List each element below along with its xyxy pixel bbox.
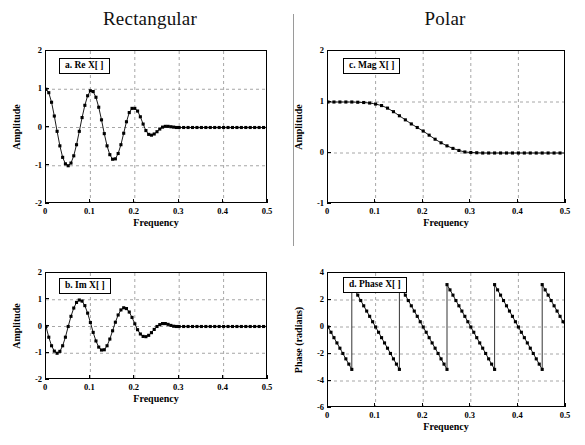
panel-b-xtick: 0.3 <box>173 382 184 392</box>
column-title-rectangular: Rectangular <box>60 8 240 30</box>
panel-a-ytick: 1 <box>25 83 42 93</box>
panel-d-ytickmark <box>327 326 331 327</box>
panel-d-xtick: 0.2 <box>417 410 428 420</box>
panel-b-xtick: 0.2 <box>128 382 139 392</box>
panel-d-ytickmark <box>327 353 331 354</box>
panel-d-ytickmark <box>327 299 331 300</box>
panel-d-xtick: 0.5 <box>560 410 571 420</box>
panel-b-xtick: 0.4 <box>217 382 228 392</box>
panel-a-xtickmark <box>178 199 179 203</box>
panel-c-xlabel: Frequency <box>423 217 468 228</box>
panel-a-ytick: -1 <box>25 160 42 170</box>
panel-d-xtickmark <box>374 403 375 407</box>
panel-d-xtick: 0.4 <box>512 410 523 420</box>
panel-b-xtickmark <box>222 375 223 379</box>
panel-c-xtickmark <box>565 199 566 203</box>
panel-d-ytickmark <box>327 380 331 381</box>
panel-b-xtick: 0 <box>43 382 47 392</box>
panel-a-re: a. Re X[ ]00.10.20.30.40.5-2-1012Frequen… <box>45 50 267 203</box>
panel-d-ytick: -2 <box>307 348 324 358</box>
panel-a-xtickmark <box>222 199 223 203</box>
panel-c-ytick: 2 <box>307 45 324 55</box>
panel-b-ytickmark <box>45 272 49 273</box>
panel-b-ytickmark <box>45 379 49 380</box>
panel-d-ytick: -6 <box>307 402 324 412</box>
panel-c-xtickmark <box>422 199 423 203</box>
panel-a-ytickmark <box>45 50 49 51</box>
panel-b-ytickmark <box>45 298 49 299</box>
panel-b-ytick: 1 <box>25 294 42 304</box>
panel-b-xtickmark <box>89 375 90 379</box>
panel-b-ytick: 0 <box>25 321 42 331</box>
panel-c-ytick: 1 <box>307 96 324 106</box>
panel-a-xtickmark <box>89 199 90 203</box>
panel-d-xtick: 0 <box>325 410 329 420</box>
panel-b-ytickmark <box>45 325 49 326</box>
panel-d-ylabel: Phase (radians) <box>293 306 304 372</box>
panel-c-ytick: -1 <box>307 198 324 208</box>
panel-a-xtick: 0.4 <box>217 206 228 216</box>
panel-c-label: c. Mag X[ ] <box>343 58 400 74</box>
panel-d-ytick: 4 <box>307 267 324 277</box>
panel-b-ytick: -2 <box>25 374 42 384</box>
panel-a-ytickmark <box>45 203 49 204</box>
panel-b-ytick: 2 <box>25 267 42 277</box>
panel-a-xtickmark <box>267 199 268 203</box>
panel-c-ytickmark <box>327 203 331 204</box>
panel-c-xtick: 0.4 <box>512 206 523 216</box>
panel-c-xtickmark <box>517 199 518 203</box>
panel-b-xtickmark <box>133 375 134 379</box>
panel-c-xtickmark <box>469 199 470 203</box>
panel-b-ytick: -1 <box>25 347 42 357</box>
panel-c-ytickmark <box>327 152 331 153</box>
panel-a-xtick: 0.5 <box>262 206 273 216</box>
panel-d-xtick: 0.1 <box>369 410 380 420</box>
panel-d-xlabel: Frequency <box>423 421 468 432</box>
panel-b-xtick: 0.1 <box>84 382 95 392</box>
panel-a-ytick: 0 <box>25 122 42 132</box>
panel-a-ytickmark <box>45 126 49 127</box>
panel-b-im: b. Im X[ ]00.10.20.30.40.5-2-1012Frequen… <box>45 272 267 379</box>
panel-d-xtickmark <box>422 403 423 407</box>
panel-a-xlabel: Frequency <box>133 217 178 228</box>
panel-a-xtick: 0 <box>43 206 47 216</box>
panel-c-mag: c. Mag X[ ]00.10.20.30.40.5-1012Frequenc… <box>327 50 565 203</box>
panel-a-ytick: -2 <box>25 198 42 208</box>
panel-d-xtickmark <box>517 403 518 407</box>
panel-b-xtick: 0.5 <box>262 382 273 392</box>
panel-c-xtick: 0.1 <box>369 206 380 216</box>
panel-d-ytick: -4 <box>307 375 324 385</box>
panel-a-xtickmark <box>133 199 134 203</box>
panel-c-ytick: 0 <box>307 147 324 157</box>
panel-a-ytick: 2 <box>25 45 42 55</box>
panel-d-phase: d. Phase X[ ]00.10.20.30.40.5-6-4-2024Fr… <box>327 272 565 407</box>
panel-d-label: d. Phase X[ ] <box>343 277 407 293</box>
panel-c-ylabel: Amplitude <box>293 104 304 150</box>
panel-a-xtick: 0.3 <box>173 206 184 216</box>
panel-c-xtick: 0.5 <box>560 206 571 216</box>
figure-root: Rectangular Polar a. Re X[ ]00.10.20.30.… <box>0 0 585 445</box>
panel-b-xtickmark <box>178 375 179 379</box>
panel-a-xtick: 0.2 <box>128 206 139 216</box>
panel-b-label: b. Im X[ ] <box>59 278 111 294</box>
panel-b-ylabel: Amplitude <box>11 303 22 349</box>
panel-a-xtick: 0.1 <box>84 206 95 216</box>
panel-d-ytick: 0 <box>307 321 324 331</box>
panel-c-xtick: 0.3 <box>464 206 475 216</box>
panel-a-ytickmark <box>45 88 49 89</box>
panel-a-ytickmark <box>45 164 49 165</box>
panel-c-xtick: 0 <box>325 206 329 216</box>
panel-c-xtick: 0.2 <box>417 206 428 216</box>
panel-a-label: a. Re X[ ] <box>59 58 110 74</box>
panel-b-xtickmark <box>267 375 268 379</box>
panel-d-xtick: 0.3 <box>464 410 475 420</box>
panel-d-ytickmark <box>327 272 331 273</box>
panel-b-xlabel: Frequency <box>133 393 178 404</box>
panel-d-xtickmark <box>469 403 470 407</box>
column-title-polar: Polar <box>380 8 510 30</box>
panel-c-ytickmark <box>327 50 331 51</box>
panel-b-ytickmark <box>45 352 49 353</box>
panel-d-ytick: 2 <box>307 294 324 304</box>
panel-c-ytickmark <box>327 101 331 102</box>
panel-d-xtickmark <box>565 403 566 407</box>
